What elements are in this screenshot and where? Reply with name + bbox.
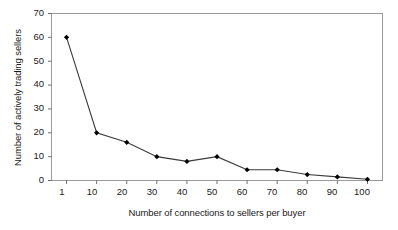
x-tick-marks xyxy=(67,181,368,185)
plot-area xyxy=(0,0,398,230)
chart-figure: Number of actively trading sellers Numbe… xyxy=(0,0,398,230)
y-tick-marks xyxy=(48,14,52,181)
